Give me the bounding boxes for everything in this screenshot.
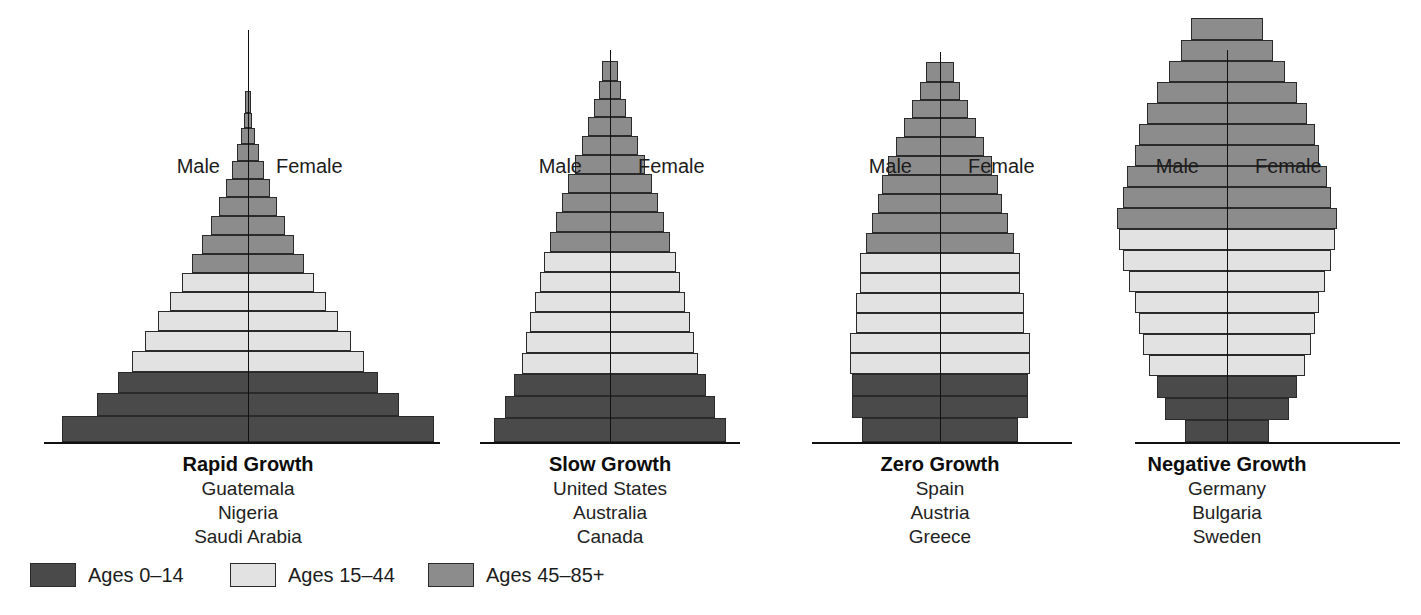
legend-label: Ages 45–85+ xyxy=(486,565,604,585)
legend-label: Ages 0–14 xyxy=(88,565,184,585)
male-side-label: Male xyxy=(1156,156,1199,176)
legend-swatch xyxy=(428,563,474,587)
pyramid-panel: MaleFemaleNegative GrowthGermanyBulgaria… xyxy=(0,0,1421,548)
baseline-axis xyxy=(1135,442,1400,444)
legend-item: Ages 45–85+ xyxy=(428,563,604,587)
legend-label: Ages 15–44 xyxy=(288,565,395,585)
legend-swatch xyxy=(30,563,76,587)
panel-country: Germany xyxy=(1057,477,1397,501)
population-pyramid-figure: MaleFemaleRapid GrowthGuatemalaNigeriaSa… xyxy=(0,0,1421,615)
center-axis xyxy=(1227,50,1228,442)
panel-country: Bulgaria xyxy=(1057,501,1397,525)
pyramid-plot: MaleFemale xyxy=(0,0,1421,443)
female-side-label: Female xyxy=(1255,156,1322,176)
legend-item: Ages 0–14 xyxy=(30,563,184,587)
panel-title: Negative Growth xyxy=(1057,452,1397,477)
legend-swatch xyxy=(230,563,276,587)
panel-country: Sweden xyxy=(1057,525,1397,549)
panel-caption: Negative GrowthGermanyBulgariaSweden xyxy=(1057,452,1397,549)
pyramid-bar xyxy=(1191,18,1263,40)
legend-item: Ages 15–44 xyxy=(230,563,395,587)
